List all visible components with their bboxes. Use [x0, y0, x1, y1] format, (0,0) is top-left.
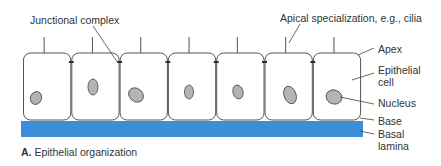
caption-text: Epithelial organization: [34, 146, 137, 158]
leader-line: [289, 24, 300, 43]
label-basal-lamina-1: Basal: [378, 128, 404, 140]
epithelial-cell: [24, 37, 71, 120]
epithelial-cell: [165, 37, 215, 120]
figure-caption: A. Epithelial organization: [21, 146, 137, 158]
caption-letter: A.: [21, 146, 32, 158]
nucleus: [88, 79, 98, 95]
label-base: Base: [378, 115, 402, 127]
epithelial-cell: [262, 37, 312, 120]
leader-line: [358, 48, 374, 55]
label-epithelial-cell-2: cell: [378, 76, 394, 88]
label-nucleus: Nucleus: [378, 97, 416, 109]
label-epithelial-cell-1: Epithelial: [378, 64, 421, 76]
basal-lamina: [21, 121, 363, 137]
epithelial-cells: [24, 37, 361, 120]
epithelial-cell: [117, 37, 167, 120]
label-apex: Apex: [378, 43, 402, 55]
epithelial-cell: [310, 37, 360, 120]
leader-line: [360, 118, 374, 120]
label-junctional-complex: Junctional complex: [30, 14, 119, 26]
epithelial-cell: [214, 37, 264, 120]
epithelial-cell: [69, 37, 119, 120]
label-apical-specialization: Apical specialization, e.g., cilia: [280, 12, 422, 24]
label-basal-lamina-2: lamina: [378, 140, 409, 152]
nucleus: [185, 85, 194, 99]
